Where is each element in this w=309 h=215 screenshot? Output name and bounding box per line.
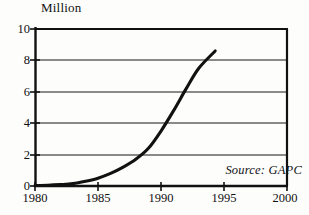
y-tick-label-6-wrap: 6 (0, 86, 30, 98)
y-tick-label-2: 2 (4, 149, 30, 161)
x-tick-label-1985: 1985 (74, 191, 122, 205)
x-tick-label-1990: 1990 (137, 191, 185, 205)
y-tick-label-10-wrap: 10 (0, 23, 30, 35)
x-tick-label-2000: 2000 (261, 191, 309, 205)
y-tick-label-8-wrap: 8 (0, 54, 30, 66)
y-tick-label-4: 4 (4, 117, 30, 129)
y-axis-title: Million (41, 0, 81, 15)
y-tick-label-6: 6 (4, 86, 30, 98)
x-tick-label-1980: 1980 (11, 191, 59, 205)
y-tick-label-10: 10 (4, 23, 30, 35)
y-tick-label-2-wrap: 2 (0, 149, 30, 161)
chart-canvas (0, 0, 309, 215)
y-tick-label-4-wrap: 4 (0, 117, 30, 129)
source-annotation: Source: GAPC (225, 163, 302, 177)
x-tick-label-1995: 1995 (200, 191, 248, 205)
line-chart: Million 10 8 6 4 2 0 1980 1985 1990 1995… (0, 0, 309, 215)
y-tick-label-8: 8 (4, 54, 30, 66)
